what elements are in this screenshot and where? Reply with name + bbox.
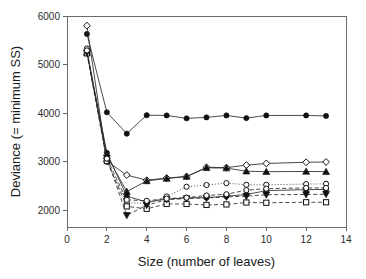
marker-filled-circle xyxy=(124,131,129,136)
marker-filled-circle xyxy=(323,113,328,118)
marker-open-diamond xyxy=(84,22,91,29)
data-series xyxy=(84,22,330,183)
series-line xyxy=(87,49,326,204)
marker-open-circle xyxy=(184,195,189,200)
y-tick-label: 4000 xyxy=(38,108,61,119)
marker-open-diamond xyxy=(123,172,130,179)
marker-filled-circle xyxy=(204,115,209,120)
marker-open-circle xyxy=(84,48,89,53)
marker-open-circle xyxy=(244,182,249,187)
series-line xyxy=(87,51,326,202)
marker-filled-circle xyxy=(184,116,189,121)
marker-open-square xyxy=(304,200,309,205)
marker-open-circle xyxy=(244,188,249,193)
marker-open-circle xyxy=(104,156,109,161)
marker-open-square xyxy=(204,202,209,207)
marker-open-diamond xyxy=(323,159,330,166)
marker-open-circle xyxy=(323,185,328,190)
marker-filled-circle xyxy=(104,110,109,115)
x-tick-label: 10 xyxy=(261,234,273,245)
marker-open-square xyxy=(124,204,129,209)
x-tick-label: 12 xyxy=(301,234,313,245)
marker-open-circle xyxy=(224,181,229,186)
data-series xyxy=(84,31,328,136)
marker-open-circle xyxy=(304,185,309,190)
marker-filled-circle xyxy=(224,113,229,118)
marker-filled-circle xyxy=(144,113,149,118)
x-tick-label: 0 xyxy=(64,234,70,245)
y-tick-label: 3000 xyxy=(38,156,61,167)
deviance-vs-size-chart: 2000300040005000600002468101214Size (num… xyxy=(0,0,366,279)
marker-filled-circle xyxy=(264,113,269,118)
marker-open-square xyxy=(264,200,269,205)
series-line xyxy=(87,50,326,200)
y-axis: 20003000400050006000 xyxy=(38,11,67,216)
marker-filled-circle xyxy=(164,113,169,118)
series-line xyxy=(87,26,326,180)
marker-filled-inverted-triangle xyxy=(123,213,130,219)
x-tick-label: 2 xyxy=(104,234,110,245)
chart-canvas: 2000300040005000600002468101214Size (num… xyxy=(0,0,366,279)
marker-open-circle xyxy=(264,186,269,191)
x-axis: 02468101214 xyxy=(64,227,352,245)
marker-open-square xyxy=(323,200,328,205)
y-tick-label: 5000 xyxy=(38,59,61,70)
marker-open-square xyxy=(224,202,229,207)
marker-filled-circle xyxy=(244,116,249,121)
marker-open-circle xyxy=(224,192,229,197)
marker-filled-circle xyxy=(304,113,309,118)
marker-open-circle xyxy=(204,193,209,198)
marker-open-circle xyxy=(144,198,149,203)
marker-open-diamond xyxy=(263,160,270,167)
marker-open-circle xyxy=(164,196,169,201)
marker-open-diamond xyxy=(303,159,310,166)
x-tick-label: 14 xyxy=(340,234,352,245)
x-tick-label: 8 xyxy=(224,234,230,245)
marker-open-circle xyxy=(204,182,209,187)
data-series xyxy=(84,48,328,204)
marker-open-square xyxy=(244,200,249,205)
marker-open-circle xyxy=(124,197,129,202)
x-tick-label: 4 xyxy=(144,234,150,245)
x-axis-title: Size (number of leaves) xyxy=(138,254,275,269)
marker-open-circle xyxy=(184,184,189,189)
y-tick-label: 2000 xyxy=(38,205,61,216)
x-tick-label: 6 xyxy=(184,234,190,245)
y-axis-title: Deviance (= minimum SS) xyxy=(8,46,23,197)
data-series xyxy=(83,49,329,195)
y-tick-label: 6000 xyxy=(38,11,61,22)
